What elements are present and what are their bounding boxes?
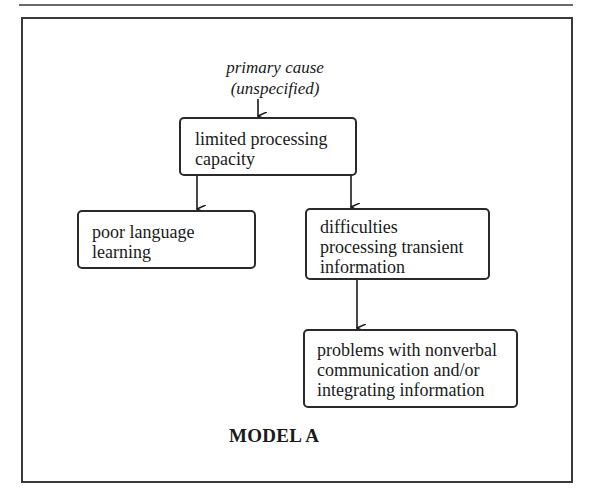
node-difficulties-transient: difficulties processing transient inform… — [305, 208, 490, 280]
node-limited-processing-capacity: limited processing capacity — [179, 117, 357, 176]
node-poor-language-learning: poor language learning — [77, 210, 256, 269]
diagram-title: MODEL A — [229, 425, 319, 447]
node-nonverbal-problems: problems with nonverbal communication an… — [303, 329, 518, 408]
primary-cause-label: primary cause (unspecified) — [200, 57, 350, 99]
